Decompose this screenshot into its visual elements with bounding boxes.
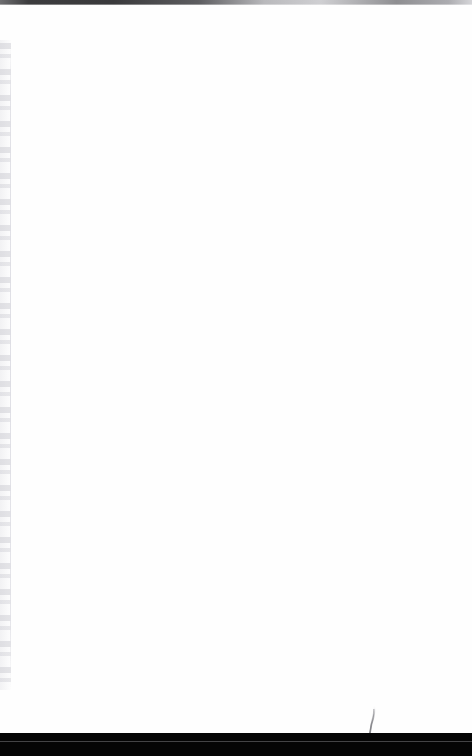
- scanned-document-page: [0, 0, 472, 756]
- gutter-crease-line: [10, 44, 11, 688]
- page-edge-seam-line: [0, 741, 472, 742]
- page-edge-shadow-band: [0, 733, 472, 756]
- page-sheet: [0, 5, 472, 733]
